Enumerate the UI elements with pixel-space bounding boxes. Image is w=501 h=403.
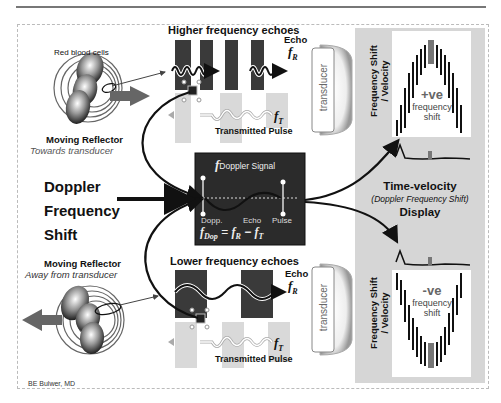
positive-shift-label: +ve frequency shift [408,88,456,122]
display-title: Time-velocity [355,180,485,192]
bottom-transmitted-pulse-label: Transmitted Pulse [215,354,293,364]
negative-shift-label: -ve frequency shift [408,284,456,318]
bottom-reflector-sublabel: Away from transducer [25,269,117,280]
label-line-3: Shift [44,223,120,247]
top-reflector-graphic [54,49,165,126]
label-line-1: Doppler [44,175,120,199]
label-line-2: Frequency [44,199,120,223]
bottom-reflector-graphic [22,281,158,355]
eq-label-dopp: Dopp. [201,216,222,225]
doppler-frequency-shift-label: Doppler Frequency Shift [44,175,120,247]
eq-label-echo: Echo [243,216,261,225]
top-transmitted-pulse-label: Transmitted Pulse [215,126,293,136]
bottom-echo-freq: fR [288,278,298,296]
display-title-2: Display [355,206,485,218]
bottom-echo-heading: Lower frequency echoes [170,255,299,267]
top-echo-heading: Higher frequency echoes [168,24,299,36]
doppler-equation: fDop = fR − fT [200,225,263,241]
display-subtitle: (Doppler Frequency Shift) [355,194,485,204]
top-echo-freq: fR [288,44,298,62]
transducer-top-label: transducer [318,58,329,118]
top-tx-freq: fT [274,108,283,126]
top-axis-label: Frequency Shift/ Velocity [368,36,390,126]
eq-label-pulse: Pulse [272,216,292,225]
top-reflector-label: Moving Reflector [46,134,123,145]
transducer-bottom-label: transducer [318,278,329,338]
bottom-tx-freq: fT [274,335,283,353]
red-blood-cells-label: Red blood cells [54,48,109,57]
bottom-reflector-label: Moving Reflector [44,258,121,269]
signal-box-title: fDoppler Signal [215,157,275,173]
top-reflector-sublabel: Towards transducer [30,145,113,156]
credit-label: BE Bulwer, MD [28,380,75,387]
bottom-axis-label: Frequency Shift/ Velocity [368,268,390,358]
